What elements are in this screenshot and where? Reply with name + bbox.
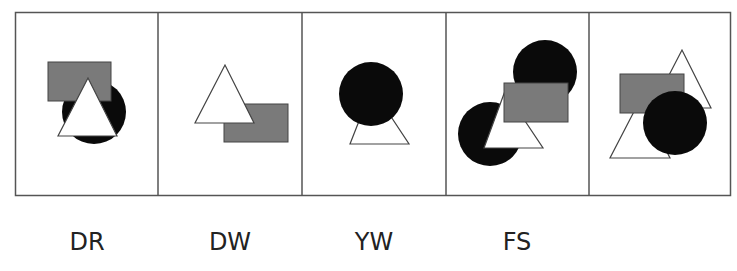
gray-rectangle <box>504 83 568 122</box>
black-circle <box>643 91 707 155</box>
panel-label-4: FS <box>503 228 532 256</box>
shapes-figure <box>0 0 737 200</box>
panel-label-3: YW <box>355 228 393 256</box>
panel-label-1: DR <box>69 228 104 256</box>
panel-label-2: DW <box>209 228 251 256</box>
black-circle <box>339 62 403 126</box>
